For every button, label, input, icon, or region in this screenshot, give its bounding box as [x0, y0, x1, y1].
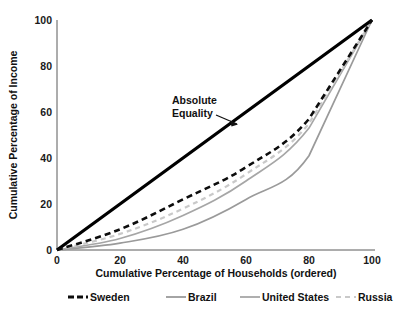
x-tick-label: 60 — [240, 254, 252, 266]
x-tick-label: 20 — [114, 254, 126, 266]
y-tick-label: 80 — [40, 60, 52, 72]
legend-label: Brazil — [188, 291, 217, 303]
y-tick-labels: 020406080100 — [34, 14, 52, 256]
annotation-line-2: Equality — [172, 107, 213, 119]
absolute-equality-annotation: Absolute Equality — [172, 94, 238, 127]
x-tick-label: 40 — [177, 254, 189, 266]
lorenz-curve-chart: 020406080100 020406080100 Absolute Equal… — [0, 0, 413, 319]
legend-label: Sweden — [90, 291, 130, 303]
y-tick-label: 40 — [40, 152, 52, 164]
y-tick-label: 20 — [40, 198, 52, 210]
legend-item-sweden[interactable]: Sweden — [68, 291, 130, 303]
y-tick-label: 60 — [40, 106, 52, 118]
series-layer — [57, 20, 372, 250]
annotation-line-1: Absolute — [172, 94, 217, 106]
x-tick-label: 100 — [363, 254, 381, 266]
x-tick-label: 80 — [303, 254, 315, 266]
y-axis-title: Cumulative Percentage of Income — [7, 51, 19, 220]
y-tick-label: 0 — [46, 244, 52, 256]
chart-legend: SwedenBrazilUnited StatesRussia — [68, 291, 393, 303]
legend-item-united-states[interactable]: United States — [240, 291, 329, 303]
x-tick-label: 0 — [54, 254, 60, 266]
x-axis-title: Cumulative Percentage of Households (ord… — [96, 267, 337, 279]
chart-canvas: 020406080100 020406080100 Absolute Equal… — [0, 0, 413, 319]
y-tick-label: 100 — [34, 14, 52, 26]
legend-item-brazil[interactable]: Brazil — [166, 291, 217, 303]
x-tick-labels: 020406080100 — [54, 254, 381, 266]
legend-label: Russia — [358, 291, 393, 303]
legend-label: United States — [262, 291, 329, 303]
legend-item-russia[interactable]: Russia — [336, 291, 393, 303]
